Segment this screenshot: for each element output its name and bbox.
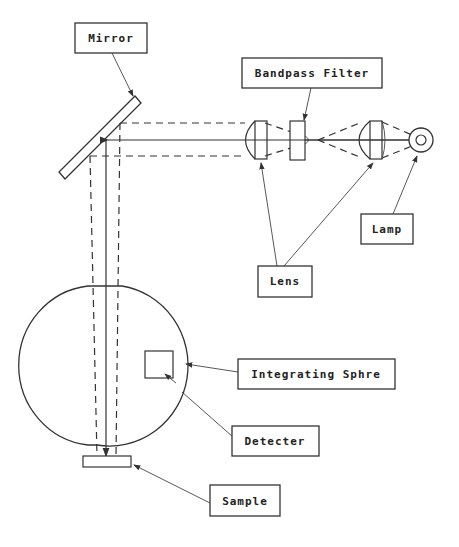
detector-element xyxy=(145,351,173,378)
label-detector: Detecter xyxy=(232,426,319,456)
svg-text:Sample: Sample xyxy=(222,495,268,508)
label-sample: Sample xyxy=(210,485,280,516)
svg-text:Mirror: Mirror xyxy=(88,32,134,45)
integrating-sphere-element xyxy=(19,286,188,446)
label-bandpass-filter: Bandpass Filter xyxy=(242,58,382,88)
mirror-element xyxy=(59,96,141,179)
label-mirror: Mirror xyxy=(75,23,147,53)
svg-text:Integrating Sphre: Integrating Sphre xyxy=(251,368,381,381)
label-lamp: Lamp xyxy=(361,214,413,244)
svg-text:Bandpass Filter: Bandpass Filter xyxy=(255,67,369,80)
sample-element xyxy=(83,456,131,467)
lamp-element xyxy=(409,128,433,152)
svg-text:Lamp: Lamp xyxy=(372,223,403,236)
label-integrating-sphere: Integrating Sphre xyxy=(238,359,395,389)
svg-text:Lens: Lens xyxy=(270,275,301,288)
label-lens: Lens xyxy=(258,266,312,297)
vertical-beam xyxy=(90,123,120,456)
svg-text:Detecter: Detecter xyxy=(245,435,306,448)
optical-diagram: Mirror Bandpass Filter Lamp Lens Integra… xyxy=(0,0,459,547)
